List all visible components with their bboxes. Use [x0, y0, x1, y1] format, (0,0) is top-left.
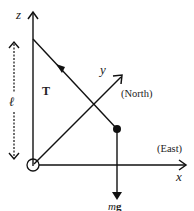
- x-axis-label: x: [175, 169, 182, 184]
- z-axis: [28, 12, 38, 166]
- y-axis-label: y: [98, 62, 106, 77]
- weight-label: mg: [108, 200, 122, 211]
- weight-arrow-icon: [112, 192, 122, 200]
- x-axis: [39, 160, 186, 170]
- tension-label: T: [42, 84, 50, 98]
- z-axis-label: z: [15, 7, 21, 22]
- east-label: (East): [157, 143, 183, 155]
- length-label: ℓ: [9, 94, 15, 109]
- y-axis-arrowhead-icon: [113, 75, 122, 84]
- north-label: (North): [121, 88, 153, 100]
- pendulum-diagram: z ℓ x (East) y (North) T mg: [0, 0, 194, 211]
